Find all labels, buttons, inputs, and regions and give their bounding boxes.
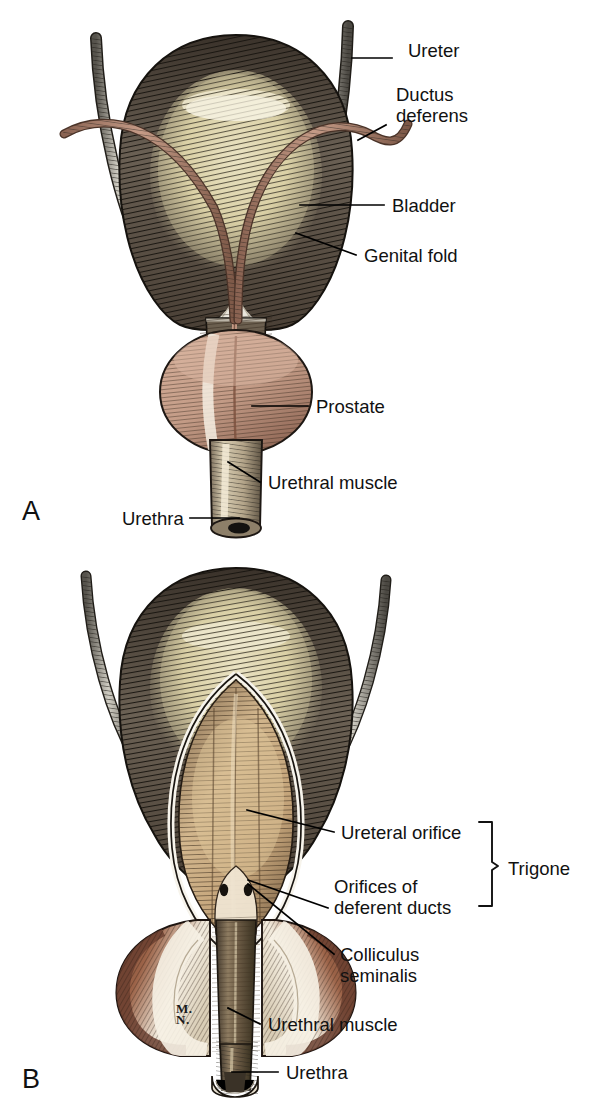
trigone-brace (479, 822, 498, 906)
urethral-muscle (204, 436, 268, 538)
artist-signature: M.N. (176, 1003, 193, 1025)
label-orifices-deferent-ducts: Orifices of deferent ducts (334, 876, 451, 918)
panel-letter-a: A (22, 498, 40, 525)
panel-a-illustration (0, 0, 592, 548)
anatomical-figure: A Ureter Ductus deferens Bladder Genital… (0, 0, 592, 1107)
panel-letter-b: B (22, 1066, 40, 1093)
label-genital-fold: Genital fold (364, 245, 458, 266)
label-urethral-muscle: Urethral muscle (268, 472, 398, 493)
label-trigone: Trigone (508, 858, 570, 879)
panel-a: A Ureter Ductus deferens Bladder Genital… (0, 0, 592, 548)
urethral-lumen (228, 523, 250, 534)
label-prostate: Prostate (316, 396, 385, 417)
label-urethral-muscle-b: Urethral muscle (268, 1014, 398, 1035)
label-colliculus-seminalis: Colliculus seminalis (340, 944, 419, 986)
label-urethra-b: Urethra (286, 1062, 348, 1083)
prostatic-urethra (212, 916, 260, 1052)
prostate-lobe-right (252, 914, 362, 1064)
prostate-lobe-left (110, 914, 220, 1064)
label-ureter: Ureter (408, 40, 459, 61)
panel-b: B M.N. Ureteral orifice Orifices of defe… (0, 548, 592, 1107)
label-bladder: Bladder (392, 195, 456, 216)
label-ductus-deferens: Ductus deferens (396, 84, 468, 126)
label-ureteral-orifice: Ureteral orifice (341, 822, 461, 843)
ureteral-orifice-left (220, 884, 228, 896)
label-urethra: Urethra (122, 508, 184, 529)
